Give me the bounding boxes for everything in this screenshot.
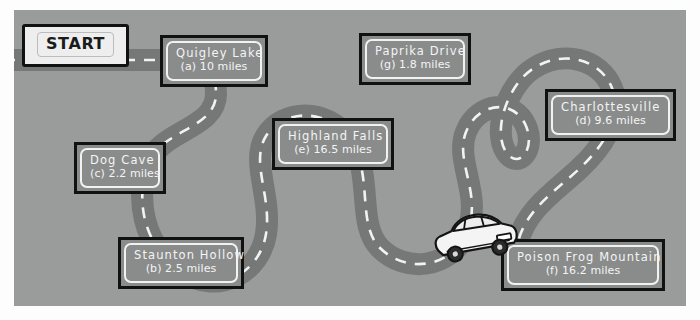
sign-quigley-lake-name: Quigley Lake <box>176 46 252 60</box>
start-marker-label: START <box>46 35 105 53</box>
road-map-figure: START Quigley Lake (a) 10 miles Dog Cave… <box>0 0 700 320</box>
sign-charlottesville-distance: (d) 9.6 miles <box>561 114 660 128</box>
map-panel: START Quigley Lake (a) 10 miles Dog Cave… <box>14 10 686 306</box>
sign-poison-frog-mountain[interactable]: Poison Frog Mountain (f) 16.2 miles <box>501 239 665 291</box>
sign-quigley-lake-inner: Quigley Lake (a) 10 miles <box>166 41 262 81</box>
sign-highland-falls-distance: (e) 16.5 miles <box>288 143 378 157</box>
sign-paprika-drive-distance: (g) 1.8 miles <box>375 58 455 72</box>
sign-staunton-hollow-inner: Staunton Hollow (b) 2.5 miles <box>124 243 238 283</box>
sign-paprika-drive-name: Paprika Drive <box>375 44 455 58</box>
start-marker[interactable]: START <box>22 24 129 67</box>
sign-staunton-hollow-name: Staunton Hollow <box>134 248 228 262</box>
sign-paprika-drive[interactable]: Paprika Drive (g) 1.8 miles <box>359 33 471 85</box>
sign-paprika-drive-inner: Paprika Drive (g) 1.8 miles <box>365 39 465 79</box>
sign-staunton-hollow[interactable]: Staunton Hollow (b) 2.5 miles <box>118 237 244 289</box>
sign-highland-falls-name: Highland Falls <box>288 129 378 143</box>
sign-charlottesville-inner: Charlottesville (d) 9.6 miles <box>551 95 670 135</box>
start-marker-inner: START <box>37 32 114 57</box>
sign-poison-frog-mountain-name: Poison Frog Mountain <box>517 250 649 264</box>
sign-dog-cave-name: Dog Cave <box>90 153 150 167</box>
sign-poison-frog-mountain-distance: (f) 16.2 miles <box>517 264 649 278</box>
car-icon <box>429 208 525 270</box>
sign-highland-falls-inner: Highland Falls (e) 16.5 miles <box>278 124 388 164</box>
sign-staunton-hollow-distance: (b) 2.5 miles <box>134 262 228 276</box>
sign-quigley-lake[interactable]: Quigley Lake (a) 10 miles <box>160 35 268 87</box>
sign-dog-cave-inner: Dog Cave (c) 2.2 miles <box>80 148 160 188</box>
sign-charlottesville[interactable]: Charlottesville (d) 9.6 miles <box>545 89 676 141</box>
sign-highland-falls[interactable]: Highland Falls (e) 16.5 miles <box>272 118 394 170</box>
sign-poison-frog-mountain-inner: Poison Frog Mountain (f) 16.2 miles <box>507 245 659 285</box>
sign-dog-cave[interactable]: Dog Cave (c) 2.2 miles <box>74 142 166 194</box>
sign-dog-cave-distance: (c) 2.2 miles <box>90 167 150 181</box>
sign-charlottesville-name: Charlottesville <box>561 100 660 114</box>
sign-quigley-lake-distance: (a) 10 miles <box>176 60 252 74</box>
